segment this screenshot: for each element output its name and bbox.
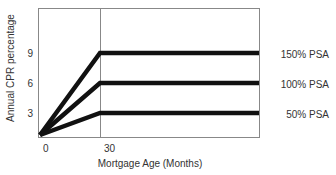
- x-tick-0: 0: [43, 143, 49, 154]
- y-tick-9: 9: [27, 48, 33, 59]
- x-axis-label: Mortgage Age (Months): [98, 158, 203, 169]
- y-tick-6: 6: [27, 78, 33, 89]
- series-label-150-psa: 150% PSA: [281, 49, 330, 60]
- plot-frame: [39, 9, 260, 138]
- series-label-100-psa: 100% PSA: [281, 79, 330, 90]
- psa-chart: 9 6 3 0 30 Mortgage Age (Months) Annual …: [0, 0, 336, 175]
- series-label-50-psa: 50% PSA: [286, 109, 329, 120]
- y-tick-3: 3: [27, 108, 33, 119]
- x-tick-30: 30: [104, 143, 116, 154]
- y-axis-label: Annual CPR percentage: [5, 14, 16, 122]
- series-line-50-psa: [40, 113, 259, 135]
